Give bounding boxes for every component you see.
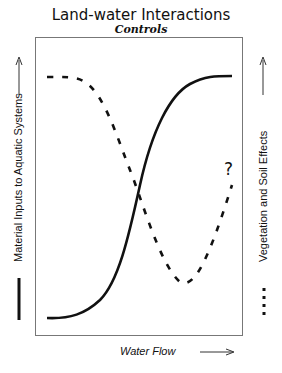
- x-axis-label: Water Flow: [120, 345, 175, 357]
- y-right-label: Vegetation and Soil Effects: [257, 131, 269, 262]
- y-left-label: Material Inputs to Aquatic Systems: [12, 93, 24, 262]
- question-annotation: ?: [224, 159, 233, 179]
- vegetation-soil-curve: [47, 77, 232, 283]
- curves: ?: [0, 0, 282, 373]
